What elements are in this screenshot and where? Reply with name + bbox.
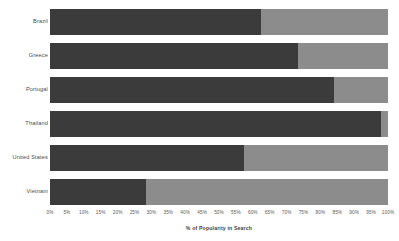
- x-tick-label: 15%: [96, 211, 106, 216]
- x-tick-label: 80%: [316, 211, 326, 216]
- x-tick-label: 90%: [349, 211, 359, 216]
- bar-segment-primary-share: [50, 145, 244, 171]
- x-tick-label: 5%: [63, 211, 70, 216]
- x-tick-label: 50%: [214, 211, 224, 216]
- bar-segment-primary-share: [50, 179, 146, 205]
- bar-segment-secondary-share: [146, 179, 388, 205]
- x-tick-label: 25%: [130, 211, 140, 216]
- x-tick-label: 55%: [231, 211, 241, 216]
- category-label: Thailand: [2, 121, 48, 127]
- bar-segment-secondary-share: [381, 111, 388, 137]
- x-axis: 0%5%10%15%20%25%30%35%40%45%50%55%60%65%…: [50, 211, 388, 223]
- bar-segment-primary-share: [50, 9, 261, 35]
- plot-area: [50, 5, 388, 209]
- bar-segment-secondary-share: [298, 43, 388, 69]
- x-tick-label: 40%: [180, 211, 190, 216]
- bar-row: [50, 111, 388, 137]
- category-label: Brazil: [2, 19, 48, 25]
- x-tick-label: 0%: [47, 211, 54, 216]
- x-tick-label: 65%: [265, 211, 275, 216]
- bar-row: [50, 179, 388, 205]
- bar-segment-primary-share: [50, 77, 334, 103]
- bar-row: [50, 145, 388, 171]
- x-axis-title: % of Popularity in Search: [50, 226, 388, 231]
- x-tick-label: 85%: [332, 211, 342, 216]
- x-tick-label: 10%: [79, 211, 89, 216]
- x-tick-label: 75%: [299, 211, 309, 216]
- bar-row: [50, 43, 388, 69]
- x-tick-label: 95%: [366, 211, 376, 216]
- x-tick-label: 45%: [197, 211, 207, 216]
- category-axis: BrazilGreecePortugalThailandUnited State…: [0, 5, 48, 209]
- stacked-bar-chart: BrazilGreecePortugalThailandUnited State…: [0, 0, 399, 241]
- x-tick-label: 60%: [248, 211, 258, 216]
- category-label: Vietnam: [2, 189, 48, 195]
- bar-segment-primary-share: [50, 43, 298, 69]
- x-tick-label: 30%: [147, 211, 157, 216]
- category-label: United States: [2, 155, 48, 161]
- bar-row: [50, 77, 388, 103]
- category-label: Portugal: [2, 87, 48, 93]
- bar-row: [50, 9, 388, 35]
- x-tick-label: 70%: [282, 211, 292, 216]
- x-tick-label: 20%: [113, 211, 123, 216]
- category-label: Greece: [2, 53, 48, 59]
- bar-segment-secondary-share: [334, 77, 388, 103]
- x-tick-label: 100%: [382, 211, 394, 216]
- bar-segment-secondary-share: [244, 145, 388, 171]
- x-tick-label: 35%: [163, 211, 173, 216]
- bar-segment-secondary-share: [261, 9, 388, 35]
- bar-segment-primary-share: [50, 111, 381, 137]
